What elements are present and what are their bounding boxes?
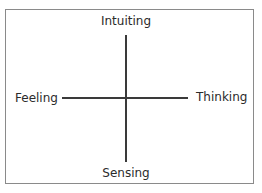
axis-label-top: Intuiting [101,14,151,28]
horizontal-axis-line [62,97,188,99]
vertical-axis-line [125,35,127,162]
axis-label-bottom: Sensing [102,166,149,180]
axis-label-left: Feeling [15,91,58,105]
axis-label-right: Thinking [196,90,247,104]
